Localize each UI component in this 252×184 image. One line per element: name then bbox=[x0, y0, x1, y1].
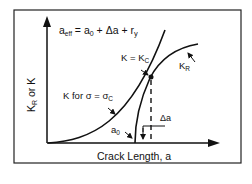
k-sigma-pointer-arrow-icon bbox=[108, 108, 115, 114]
delta-a-bracket bbox=[143, 126, 165, 132]
kr-pointer-arrow-icon bbox=[188, 53, 195, 62]
k-for-sigma-label: K for σ = σC bbox=[63, 90, 113, 102]
crack-resistance-diagram: aeff = a0 + Δa + ry K = KC KR K for σ = … bbox=[0, 0, 252, 184]
x-axis-arrow-icon bbox=[208, 139, 220, 147]
aeff-equation: aeff = a0 + Δa + ry bbox=[59, 24, 138, 38]
k-equals-kc-label: K = KC bbox=[121, 52, 150, 64]
y-axis-arrow-icon bbox=[43, 16, 51, 27]
y-axis-label: KR or K bbox=[25, 78, 38, 112]
a0-label: a0 bbox=[111, 124, 120, 136]
delta-a-label: Δa bbox=[160, 113, 171, 123]
x-axis-label: Crack Length, a bbox=[97, 150, 171, 162]
tangent-point bbox=[149, 75, 154, 80]
kr-label: KR bbox=[179, 60, 190, 72]
a0-pointer-arrow-icon bbox=[125, 132, 132, 138]
